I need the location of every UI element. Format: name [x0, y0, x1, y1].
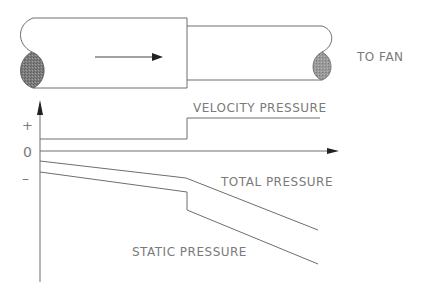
large-duct-section [20, 18, 187, 88]
to-fan-label: TO FAN [356, 50, 404, 64]
total-pressure-curve [40, 161, 318, 230]
y-axis-arrow-icon [37, 100, 43, 115]
y-label-negative: – [22, 170, 30, 186]
duct-pressure-diagram: TO FAN + 0 – VELOCITY PRESSURE TOTAL PRE… [0, 0, 424, 298]
y-label-zero: 0 [23, 144, 32, 160]
static-pressure-label: STATIC PRESSURE [132, 245, 247, 259]
x-axis-arrow-icon [327, 148, 339, 154]
duct: TO FAN [20, 18, 403, 88]
cross-section-small-icon [313, 52, 331, 80]
velocity-pressure-label: VELOCITY PRESSURE [193, 101, 326, 115]
velocity-pressure-curve [40, 118, 320, 139]
cross-section-large-icon [20, 52, 44, 88]
total-pressure-label: TOTAL PRESSURE [220, 175, 333, 189]
x-axis [40, 148, 339, 154]
y-axis [37, 100, 43, 282]
y-label-positive: + [22, 118, 33, 133]
flow-arrow-icon [95, 53, 163, 61]
small-duct-section [187, 26, 332, 80]
pressure-graph: + 0 – VELOCITY PRESSURE TOTAL PRESSURE S… [22, 100, 339, 282]
